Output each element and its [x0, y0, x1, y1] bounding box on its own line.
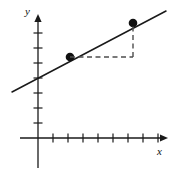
coordinate-plane-svg — [0, 0, 180, 175]
graph-figure: y x — [0, 0, 180, 175]
axes-group — [20, 14, 168, 168]
data-series-group — [12, 11, 166, 92]
plotted-line — [12, 11, 166, 92]
y-axis-label: y — [25, 6, 30, 17]
y-axis-arrowhead-icon — [34, 14, 41, 22]
x-axis-label: x — [157, 146, 162, 157]
x-axis-arrowhead-icon — [160, 134, 168, 141]
